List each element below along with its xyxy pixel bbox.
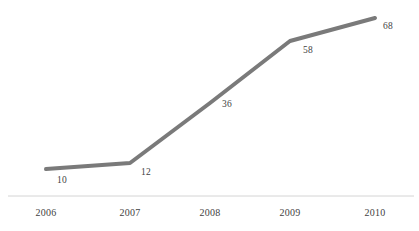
data-label-2010: 68: [383, 22, 393, 32]
data-label-2007: 12: [141, 168, 151, 178]
data-label-2006: 10: [57, 176, 67, 186]
line-chart: 1012365868 20062007200820092010: [0, 0, 419, 231]
chart-plot-area: [0, 0, 419, 231]
x-tick-label-2010: 2010: [365, 208, 386, 218]
data-label-2009: 58: [303, 46, 313, 56]
x-tick-label-2006: 2006: [36, 208, 57, 218]
data-label-2008: 36: [222, 100, 232, 110]
x-tick-label-2009: 2009: [280, 208, 301, 218]
series-line: [46, 18, 375, 169]
x-tick-label-2008: 2008: [200, 208, 221, 218]
x-tick-label-2007: 2007: [120, 208, 141, 218]
